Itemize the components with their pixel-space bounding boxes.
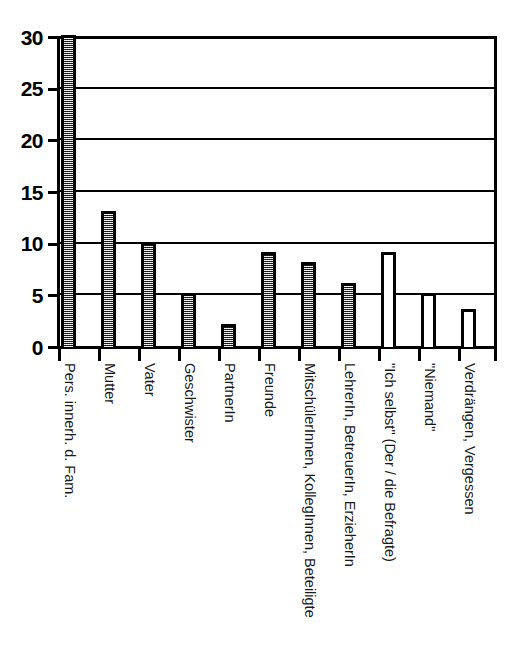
x-axis-label-7: LehrerIn, BetreuerIn, ErzieherIn (343, 363, 358, 567)
x-tick-mark-10 (458, 349, 461, 361)
bar-8 (381, 252, 396, 347)
bar-3 (181, 293, 196, 347)
bar-4 (221, 324, 236, 347)
x-tick-mark-6 (298, 349, 301, 361)
y-tick-label-20: 20 (7, 130, 43, 151)
x-axis-label-2: Vater (143, 363, 158, 397)
y-tick-mark-0 (48, 346, 57, 349)
y-axis: 051015202530 (0, 0, 57, 669)
x-axis-labels: Pers. innerh. d. Fam.MutterVaterGeschwis… (57, 363, 497, 663)
x-tick-mark-9 (418, 349, 421, 361)
x-axis-label-6: MitschülerInnen, KollegInnen, Beteiligte (303, 363, 318, 618)
y-tick-mark-25 (48, 88, 57, 91)
x-tick-mark-1 (98, 349, 101, 361)
y-tick-label-15: 15 (7, 182, 43, 203)
x-tick-mark-8 (378, 349, 381, 361)
y-tick-label-10: 10 (7, 233, 43, 254)
y-tick-label-25: 25 (7, 78, 43, 99)
bar-10 (461, 309, 476, 347)
x-tick-mark-4 (218, 349, 221, 361)
x-tick-mark-end (494, 349, 497, 361)
bars-group (57, 36, 497, 349)
bar-2 (141, 242, 156, 347)
x-axis-ticks (57, 349, 497, 363)
y-tick-mark-10 (48, 243, 57, 246)
bar-5 (261, 252, 276, 347)
x-tick-mark-7 (338, 349, 341, 361)
x-axis-label-5: Freunde (263, 363, 278, 417)
x-axis-label-0: Pers. innerh. d. Fam. (63, 363, 78, 498)
y-tick-mark-30 (48, 36, 57, 39)
x-axis-label-9: "Niemand" (423, 363, 438, 431)
bar-6 (301, 262, 316, 347)
x-axis-label-3: Geschwister (183, 363, 198, 443)
bar-0 (61, 35, 76, 347)
bar-chart: 051015202530 Pers. innerh. d. Fam.Mutter… (0, 0, 519, 669)
bar-9 (421, 293, 436, 347)
x-tick-mark-3 (178, 349, 181, 361)
x-tick-mark-5 (258, 349, 261, 361)
y-tick-mark-5 (48, 294, 57, 297)
bar-1 (101, 211, 116, 347)
x-axis-label-10: Verdrängen, Vergessen (463, 363, 478, 515)
y-tick-label-30: 30 (7, 27, 43, 48)
y-tick-label-5: 5 (7, 285, 43, 306)
x-tick-mark-2 (138, 349, 141, 361)
x-axis-label-1: Mutter (103, 363, 118, 404)
bar-7 (341, 283, 356, 347)
y-tick-label-0: 0 (7, 337, 43, 358)
x-axis-label-4: PartnerIn (223, 363, 238, 423)
y-tick-mark-15 (48, 191, 57, 194)
y-tick-mark-20 (48, 139, 57, 142)
x-axis-label-8: "Ich selbst" (Der / die Befragte) (383, 363, 398, 562)
x-tick-mark-0 (58, 349, 61, 361)
